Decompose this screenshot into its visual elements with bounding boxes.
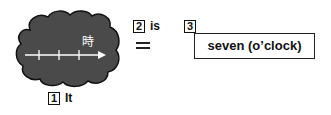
word-is: is (150, 20, 160, 33)
time-cloud (16, 11, 119, 86)
answer-box: seven (o’clock) (194, 33, 315, 59)
time-label: 時 (82, 35, 94, 49)
number-box-2: 2 (133, 20, 145, 33)
word-it: It (65, 92, 72, 105)
number-box-3: 3 (184, 20, 196, 33)
number-box-1: 1 (48, 92, 60, 105)
